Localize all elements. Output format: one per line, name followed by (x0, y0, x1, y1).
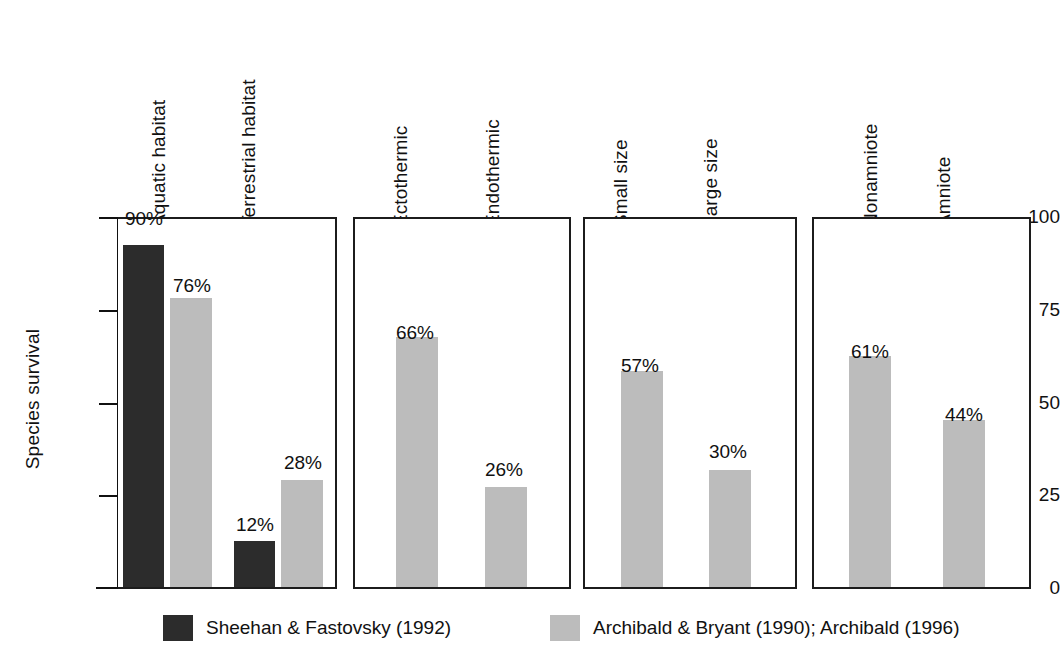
bar-aquatic-archibald (170, 298, 212, 587)
legend-label-archibald: Archibald & Bryant (1990); Archibald (19… (593, 617, 959, 639)
legend-item-archibald: Archibald & Bryant (1990); Archibald (19… (550, 612, 959, 644)
chart-legend: Sheehan & Fastovsky (1992) Archibald & B… (0, 608, 1060, 648)
bar-value-28: 28% (284, 452, 322, 474)
category-label-endothermic: Endothermic (482, 119, 504, 227)
y-tick-100 (99, 217, 118, 219)
bar-value-12: 12% (236, 514, 274, 536)
bar-endothermic-archibald (485, 487, 527, 587)
category-label-terrestrial-habitat: Terrestrial habitat (238, 79, 260, 227)
bar-value-26: 26% (485, 459, 523, 481)
bar-small-size-archibald (621, 371, 663, 587)
bar-value-30: 30% (709, 441, 747, 463)
category-label-small-size: Small size (610, 139, 632, 227)
category-label-nonamniote: Nonamniote (860, 124, 882, 227)
panel-body-size (583, 217, 797, 589)
bar-terrestrial-sheehan (234, 541, 275, 587)
bar-nonamniote-archibald (849, 356, 891, 587)
category-label-ectothermic: Ectothermic (390, 126, 412, 227)
legend-item-sheehan: Sheehan & Fastovsky (1992) (163, 612, 451, 644)
bar-value-66: 66% (396, 322, 434, 344)
species-survival-bar-chart: Species survival 100 75 50 25 0 Aquatic … (0, 0, 1060, 657)
y-tick-25 (99, 495, 118, 497)
legend-swatch-light-icon (550, 615, 580, 641)
panel-thermoregulation (353, 217, 571, 589)
y-tick-75 (99, 310, 118, 312)
bar-value-90: 90% (125, 208, 163, 230)
bar-ectothermic-archibald (396, 337, 438, 587)
bar-value-61: 61% (851, 341, 889, 363)
category-label-large-size: Large size (700, 138, 722, 227)
panel-amniote-status (812, 217, 1031, 589)
panel-habitat (118, 217, 337, 589)
bar-amniote-archibald (943, 420, 985, 587)
legend-swatch-dark-icon (163, 615, 193, 641)
bar-terrestrial-archibald (281, 480, 323, 587)
bar-value-57: 57% (621, 355, 659, 377)
x-axis-baseline (96, 587, 120, 589)
y-tick-50 (99, 403, 118, 405)
bar-value-44: 44% (945, 404, 983, 426)
bar-value-76: 76% (173, 275, 211, 297)
y-axis-title: Species survival (22, 284, 44, 514)
bar-large-size-archibald (709, 470, 751, 587)
bar-aquatic-sheehan (123, 245, 164, 587)
legend-label-sheehan: Sheehan & Fastovsky (1992) (206, 617, 451, 639)
